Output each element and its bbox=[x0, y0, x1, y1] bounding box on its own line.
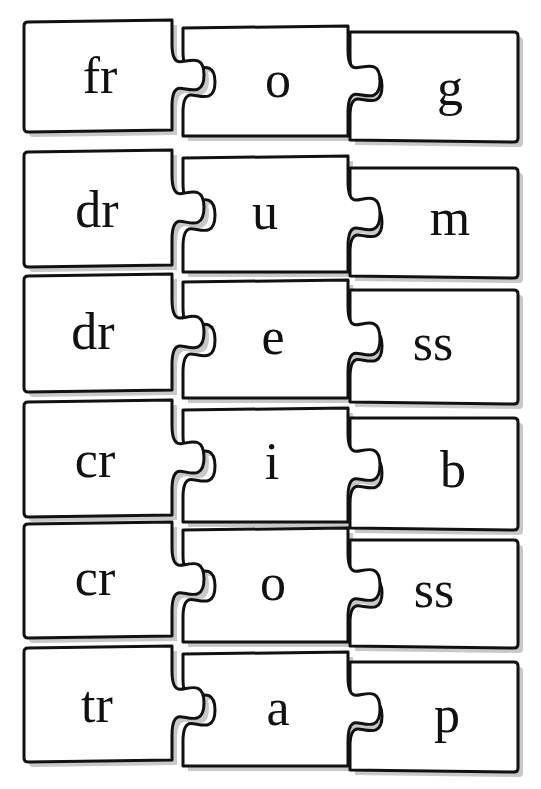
piece-vowel[interactable]: o bbox=[265, 54, 291, 106]
piece-vowel[interactable]: o bbox=[260, 557, 286, 609]
puzzle-worksheet: fr o g dr u m dr e ss cr i b cr o ss tr … bbox=[0, 0, 541, 789]
piece-vowel[interactable]: i bbox=[265, 436, 279, 488]
piece-onset[interactable]: dr bbox=[71, 306, 114, 358]
piece-onset[interactable]: cr bbox=[75, 552, 115, 604]
piece-vowel[interactable]: a bbox=[266, 682, 289, 734]
piece-ending[interactable]: m bbox=[430, 192, 470, 244]
piece-onset[interactable]: fr bbox=[83, 50, 118, 102]
puzzle-pieces-graphic bbox=[0, 0, 541, 789]
piece-onset[interactable]: cr bbox=[75, 434, 115, 486]
piece-ending[interactable]: ss bbox=[413, 317, 453, 369]
piece-onset[interactable]: dr bbox=[75, 184, 118, 236]
piece-vowel[interactable]: u bbox=[252, 186, 278, 238]
piece-ending[interactable]: b bbox=[440, 444, 466, 496]
piece-ending[interactable]: p bbox=[434, 689, 460, 741]
piece-ending[interactable]: g bbox=[437, 62, 463, 114]
piece-onset[interactable]: tr bbox=[81, 679, 113, 731]
piece-vowel[interactable]: e bbox=[261, 311, 284, 363]
piece-ending[interactable]: ss bbox=[414, 564, 454, 616]
